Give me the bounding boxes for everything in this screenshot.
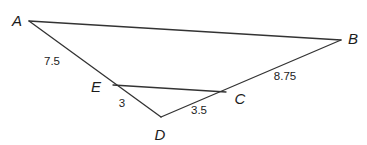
point-label-b: B <box>348 31 358 46</box>
length-label-cb: 8.75 <box>274 71 296 83</box>
segments-group <box>29 21 341 117</box>
point-label-c: C <box>235 91 246 106</box>
triangle-diagram-svg <box>0 0 367 145</box>
point-label-e: E <box>91 79 101 94</box>
geometry-figure: A B C D E 7.5 3 3.5 8.75 <box>0 0 367 145</box>
segment-ec <box>113 85 226 92</box>
length-label-ed: 3 <box>119 98 125 110</box>
point-label-a: A <box>12 13 22 28</box>
length-label-ae: 7.5 <box>44 56 60 68</box>
segment-bd <box>161 40 341 117</box>
point-label-d: D <box>155 127 166 142</box>
length-label-dc: 3.5 <box>191 105 207 117</box>
segment-ab <box>29 21 341 40</box>
segment-ad <box>29 21 161 117</box>
